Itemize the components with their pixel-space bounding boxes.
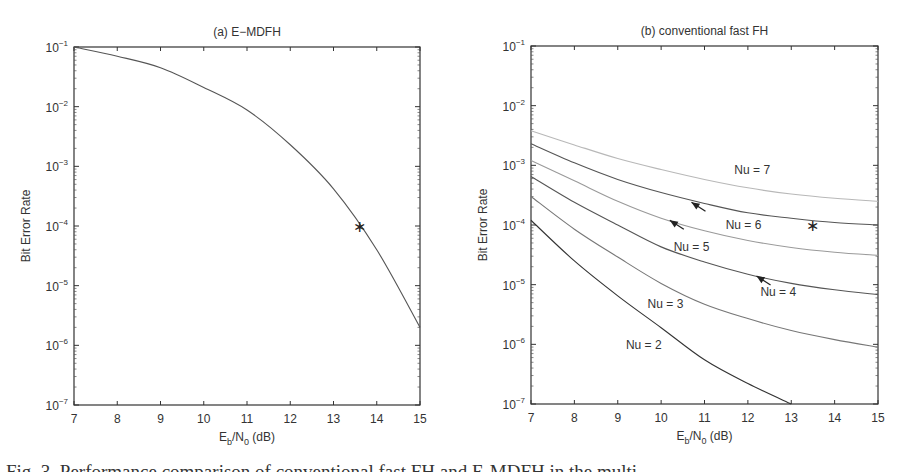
x-tick-label: 8 — [571, 411, 578, 425]
y-tick-label: 10−1 — [503, 38, 526, 54]
y-tick-label: 10−4 — [503, 217, 526, 233]
x-tick-label: 9 — [614, 411, 621, 425]
curve-annotation: Nu = 5 — [674, 240, 710, 254]
y-tick-label: 10−7 — [503, 396, 526, 412]
x-tick-label: 14 — [828, 411, 842, 425]
x-tick-label: 11 — [698, 411, 711, 425]
figure-caption: Fig. 3. Performance comparison of conven… — [6, 461, 905, 472]
x-tick-label: 12 — [284, 412, 298, 426]
y-tick-label: 10−4 — [46, 218, 69, 234]
x-tick-label: 13 — [327, 412, 341, 426]
y-tick-label: 10−3 — [503, 157, 526, 173]
chart-title: (a) E−MDFH — [213, 25, 281, 39]
x-tick-label: 10 — [197, 412, 211, 426]
figure-canvas: 78910111213141510−710−610−510−410−310−21… — [0, 0, 905, 472]
chart-title: (b) conventional fast FH — [641, 24, 768, 38]
y-tick-label: 10−5 — [46, 278, 69, 294]
y-tick-label: 10−7 — [46, 397, 69, 413]
x-tick-label: 7 — [528, 411, 535, 425]
curve-annotation: Nu = 3 — [648, 297, 684, 311]
series-line — [531, 220, 791, 404]
arrowhead-icon — [670, 220, 679, 227]
y-axis-label: Bit Error Rate — [19, 189, 33, 262]
y-tick-label: 10−2 — [503, 98, 526, 114]
x-tick-label: 11 — [241, 412, 254, 426]
series-line — [531, 197, 878, 348]
y-tick-label: 10−6 — [46, 337, 69, 353]
y-tick-label: 10−1 — [46, 39, 69, 55]
y-tick-label: 10−3 — [46, 158, 69, 174]
axes-frame — [531, 46, 878, 404]
arrowhead-icon — [757, 276, 766, 283]
y-tick-label: 10−2 — [46, 99, 69, 115]
x-tick-label: 13 — [785, 411, 799, 425]
x-axis-label: Eb/N0 (dB) — [676, 429, 732, 446]
x-tick-label: 15 — [871, 411, 885, 425]
star-marker: ∗ — [806, 217, 819, 234]
y-tick-label: 10−5 — [503, 277, 526, 293]
x-tick-label: 7 — [71, 412, 78, 426]
plot-b-conventional-fast-fh: 78910111213141510−710−610−510−410−310−21… — [476, 24, 885, 446]
axes-frame — [74, 47, 420, 405]
x-tick-label: 9 — [157, 412, 164, 426]
x-axis-label: Eb/N0 (dB) — [219, 430, 275, 447]
star-marker: ∗ — [353, 218, 366, 235]
series-line — [74, 47, 420, 327]
curve-annotation: Nu = 4 — [760, 285, 796, 299]
x-tick-label: 15 — [413, 412, 427, 426]
x-tick-label: 12 — [741, 411, 755, 425]
curve-annotation: Nu = 6 — [726, 218, 762, 232]
x-tick-label: 10 — [654, 411, 668, 425]
plot-a-e-mdfh: 78910111213141510−710−610−510−410−310−21… — [19, 25, 427, 447]
curve-annotation: Nu = 7 — [734, 163, 770, 177]
arrowhead-icon — [691, 202, 700, 209]
y-axis-label: Bit Error Rate — [476, 188, 490, 261]
curve-annotation: Nu = 2 — [626, 338, 662, 352]
x-tick-label: 14 — [370, 412, 384, 426]
x-tick-label: 8 — [114, 412, 121, 426]
y-tick-label: 10−6 — [503, 336, 526, 352]
